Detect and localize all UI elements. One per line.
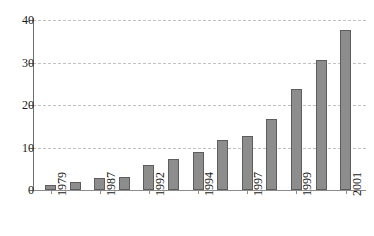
x-tick-mark	[149, 191, 150, 194]
x-tick-mark	[247, 191, 248, 194]
bar-chart: 40 30 20 10 0 19791987199219941997199920…	[0, 0, 374, 236]
bars-layer	[33, 20, 366, 190]
bar	[70, 182, 81, 191]
bar	[316, 60, 327, 190]
bar	[217, 140, 228, 190]
x-tick-label: 2001	[351, 172, 363, 196]
x-tick-label: 1992	[154, 172, 166, 196]
y-tick-label-20: 20	[6, 99, 34, 111]
y-tick-label-0: 0	[6, 184, 34, 196]
x-tick-mark	[51, 191, 52, 194]
x-tick-mark	[100, 191, 101, 194]
x-axis-line	[33, 190, 366, 191]
y-tick-label-30: 30	[6, 57, 34, 69]
y-tick-label-10: 10	[6, 142, 34, 154]
x-tick-label: 1979	[56, 172, 68, 196]
bar	[168, 159, 179, 190]
bar	[266, 119, 277, 190]
x-tick-label: 1994	[203, 172, 215, 196]
x-tick-mark	[296, 191, 297, 194]
x-tick-label: 1987	[105, 172, 117, 196]
x-tick-mark	[346, 191, 347, 194]
bar	[119, 177, 130, 190]
bar	[340, 30, 351, 190]
y-tick-label-40: 40	[6, 14, 34, 26]
x-tick-label: 1999	[301, 172, 313, 196]
x-tick-label: 1997	[252, 172, 264, 196]
x-tick-mark	[198, 191, 199, 194]
